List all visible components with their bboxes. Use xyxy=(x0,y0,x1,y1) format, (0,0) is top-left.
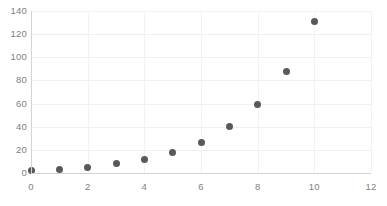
data-point[interactable] xyxy=(84,164,91,171)
gridline-vertical xyxy=(144,11,145,173)
x-axis-tick-label: 12 xyxy=(356,182,386,192)
y-axis-tick-label: 140 xyxy=(0,6,27,16)
x-axis-line xyxy=(31,173,371,174)
x-axis-tick-label: 4 xyxy=(129,182,159,192)
y-axis-tick-label: 80 xyxy=(0,75,27,85)
data-point[interactable] xyxy=(226,123,233,130)
gridline-vertical xyxy=(371,11,372,173)
data-point[interactable] xyxy=(198,139,205,146)
gridline-vertical xyxy=(88,11,89,173)
y-axis-tick-label: 120 xyxy=(0,29,27,39)
data-point[interactable] xyxy=(254,101,261,108)
y-axis-tick-label: 40 xyxy=(0,122,27,132)
gridline-vertical xyxy=(314,11,315,173)
x-axis-tick-label: 10 xyxy=(299,182,329,192)
data-point[interactable] xyxy=(56,166,63,173)
gridline-vertical xyxy=(201,11,202,173)
scatter-chart: 020406080100120140 024681012 xyxy=(0,0,387,206)
data-point[interactable] xyxy=(141,156,148,163)
x-axis-tick-label: 6 xyxy=(186,182,216,192)
plot-area xyxy=(31,11,371,173)
gridline-vertical xyxy=(258,11,259,173)
y-axis-tick-label: 20 xyxy=(0,145,27,155)
data-point[interactable] xyxy=(311,18,318,25)
data-point[interactable] xyxy=(169,149,176,156)
data-point[interactable] xyxy=(283,68,290,75)
x-axis-tick-label: 8 xyxy=(243,182,273,192)
y-axis-tick-label: 0 xyxy=(0,168,27,178)
y-axis-line xyxy=(31,11,32,174)
data-point[interactable] xyxy=(113,160,120,167)
y-axis-tick-label: 60 xyxy=(0,99,27,109)
x-axis-tick-label: 2 xyxy=(73,182,103,192)
y-axis-tick-label: 100 xyxy=(0,52,27,62)
x-axis-tick-label: 0 xyxy=(16,182,46,192)
